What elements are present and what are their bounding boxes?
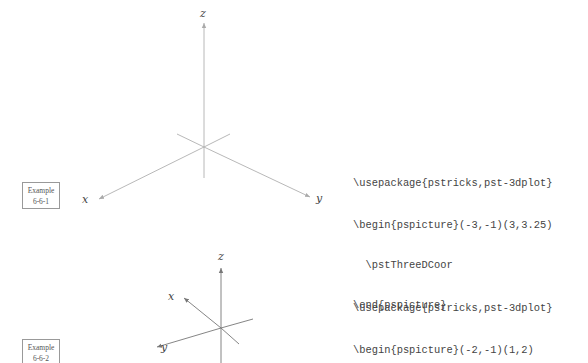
negative-y-axis — [177, 134, 204, 147]
y-axis-label: y — [315, 192, 323, 205]
coordinate-figure-6-6-1 — [99, 23, 310, 199]
x-axis-label: x — [82, 193, 89, 206]
code-line: \begin{pspicture}(-3,-1)(3,3.25) — [353, 219, 553, 232]
negative-x-axis — [204, 134, 230, 147]
x-axis-label: x — [168, 290, 175, 303]
example-label-word: Example — [23, 342, 59, 353]
code-preamble: \usepackage{pstricks,pst-3dplot} — [353, 302, 559, 315]
coordinate-figure-6-6-2 — [157, 268, 253, 363]
example-label-6-6-1: Example 6-6-1 — [22, 182, 60, 209]
x-axis — [99, 147, 204, 199]
z-axis-label: z — [217, 250, 224, 263]
y-axis — [204, 147, 310, 197]
example-label-word: Example — [23, 185, 59, 196]
example-label-number: 6-6-2 — [23, 353, 59, 363]
code-line: \pstThreeDCoor — [353, 259, 553, 272]
code-preamble: \usepackage{pstricks,pst-3dplot} — [353, 177, 553, 190]
negative-y-axis — [221, 319, 253, 328]
y-axis-label: y — [160, 341, 168, 354]
x-axis — [184, 298, 221, 328]
negative-x-axis — [221, 328, 239, 344]
code-listing-6-6-2: \usepackage{pstricks,pst-3dplot} \begin{… — [353, 277, 559, 363]
z-axis-label: z — [199, 7, 206, 20]
example-label-6-6-2: Example 6-6-2 — [22, 339, 60, 363]
code-line: \begin{pspicture}(-2,-1)(1,2) — [353, 344, 559, 357]
example-label-number: 6-6-1 — [23, 196, 59, 207]
